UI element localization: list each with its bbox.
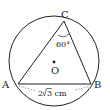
vertex-label-a: A — [1, 79, 10, 90]
side-ab-label-prefix: 2 — [38, 89, 43, 98]
angle-c-label: 60° — [56, 40, 70, 49]
vertex-label-b: B — [94, 79, 101, 90]
center-point-dot — [53, 61, 56, 64]
side-ab-label-unit: cm — [52, 89, 67, 98]
vertex-label-c: C — [61, 9, 69, 20]
side-ab-label: 2 3 cm — [36, 88, 74, 98]
center-label-o: O — [51, 65, 59, 76]
angle-c-arc — [58, 34, 69, 37]
diagram-canvas: C A B O 60° 2 3 cm — [0, 0, 110, 110]
